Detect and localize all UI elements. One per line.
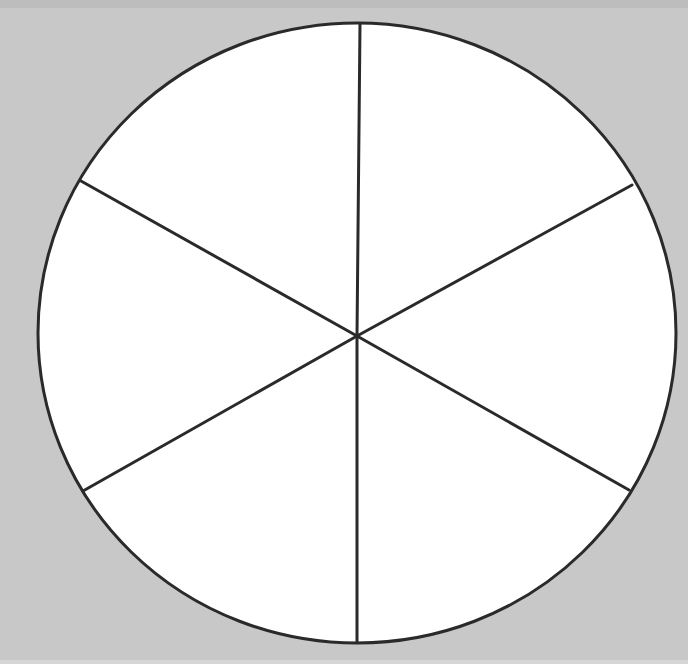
segmented-circle-diagram xyxy=(0,0,688,664)
bottom-edge-strip xyxy=(0,660,688,664)
